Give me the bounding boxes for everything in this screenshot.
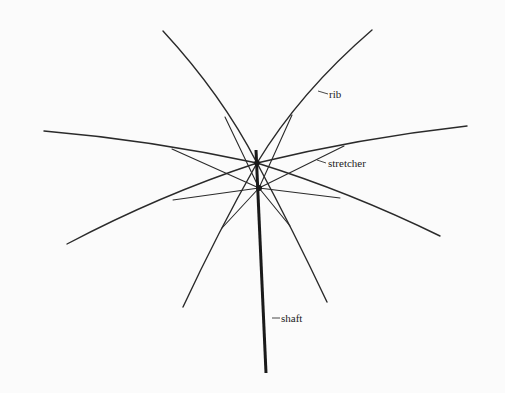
stretcher-lower-left xyxy=(173,188,259,200)
stretcher-bottom-right xyxy=(259,188,290,226)
rib-bottom-left xyxy=(183,163,257,307)
top-hub xyxy=(254,160,260,166)
shaft-label: shaft xyxy=(281,312,302,324)
rib-leader-line xyxy=(318,91,328,94)
label-stretcher-group: stretcher xyxy=(317,157,366,169)
stretcher-lower-right xyxy=(259,188,340,198)
rib-upper-left xyxy=(163,31,257,163)
umbrella-diagram: rib stretcher shaft xyxy=(0,0,505,393)
rib-left xyxy=(44,131,257,163)
stretcher-label: stretcher xyxy=(328,157,366,169)
rib-lower-right xyxy=(257,163,440,236)
label-shaft-group: shaft xyxy=(272,312,302,324)
rib-lower-left xyxy=(67,163,257,244)
rib-label: rib xyxy=(329,88,342,100)
stretcher-upper-left xyxy=(225,117,259,188)
label-rib-group: rib xyxy=(318,88,342,100)
runner-hub xyxy=(256,185,262,191)
stretcher-leader-line xyxy=(317,160,326,163)
